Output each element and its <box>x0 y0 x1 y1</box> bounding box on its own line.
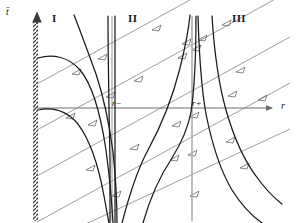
null-ray-arrowhead <box>98 54 107 60</box>
geodesic-group <box>38 15 282 223</box>
null-ray-arrowhead <box>130 144 139 150</box>
null-ray-arrowhead <box>152 25 161 31</box>
region-label-I: I <box>52 12 57 24</box>
time-axis-hatch <box>33 20 38 221</box>
null-ray-arrowhead <box>88 120 97 126</box>
geodesic-curve <box>38 56 113 223</box>
null-ray-arrowhead <box>134 76 143 82</box>
diagram-canvas <box>0 0 297 223</box>
null-ray-arrowhead <box>222 20 231 26</box>
null-ray-group <box>37 0 290 223</box>
geodesic-curve <box>198 16 262 223</box>
time-axis-label: t̄ <box>6 6 9 17</box>
null-ray-arrowhead <box>172 121 181 127</box>
horizon-label-r-plus: r+ <box>192 98 202 108</box>
spacetime-diagram-figure: t̄ r I II III r− r+ <box>0 0 297 223</box>
null-ray-arrowhead <box>86 165 95 171</box>
null-ray <box>37 0 290 84</box>
region-label-II: II <box>128 12 137 24</box>
geodesic-curve <box>38 109 109 223</box>
radial-axis-label: r <box>281 100 285 111</box>
null-ray <box>37 83 290 222</box>
null-ray <box>37 37 290 176</box>
geodesic-curve <box>212 16 282 204</box>
region-label-III: III <box>232 12 246 24</box>
null-ray-arrowhead <box>226 137 235 143</box>
horizon-label-r-minus: r− <box>112 98 122 108</box>
null-ray-arrowhead <box>236 67 245 73</box>
null-ray-arrowhead <box>228 91 237 97</box>
